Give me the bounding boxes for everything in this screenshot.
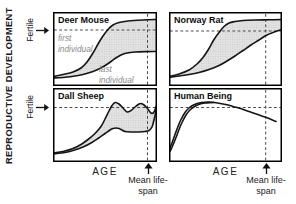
y-axis-label: REPRODUCTIVE DEVELOPMENT <box>1 6 16 166</box>
fertile-annotation-bottom: Fertile <box>25 94 49 120</box>
annotation-last-individual: last individual <box>99 64 145 85</box>
panel-norway-rat: Norway Rat <box>169 12 282 86</box>
right-arrow-icon <box>36 103 49 112</box>
mean-lifespan-annotation-left: Mean life-span <box>118 163 178 196</box>
panel-deer-mouse: Deer Mouse first individual last individ… <box>53 12 157 86</box>
panel-human-being: Human Being <box>169 88 282 162</box>
annotation-first-individual: first individual <box>58 33 100 54</box>
fertile-annotation-top: Fertile <box>25 17 49 43</box>
panel-title-dall-sheep: Dall Sheep <box>58 91 104 101</box>
right-arrow-icon <box>36 26 49 35</box>
fertile-label-bottom: Fertile <box>25 95 35 119</box>
panel-title-norway-rat: Norway Rat <box>174 15 224 25</box>
figure: REPRODUCTIVE DEVELOPMENT Fertile Fertile… <box>0 0 296 204</box>
up-arrow-icon <box>144 163 153 174</box>
mean-lifespan-label-right: Mean life-span <box>243 175 289 196</box>
up-arrow-icon <box>262 163 271 174</box>
panel-title-deer-mouse: Deer Mouse <box>58 15 109 25</box>
mean-lifespan-label-left: Mean life-span <box>125 175 171 196</box>
panel-title-human-being: Human Being <box>174 91 232 101</box>
mean-lifespan-annotation-right: Mean life-span <box>236 163 296 196</box>
fertile-label-top: Fertile <box>25 18 35 42</box>
panel-dall-sheep: Dall Sheep <box>53 88 157 162</box>
